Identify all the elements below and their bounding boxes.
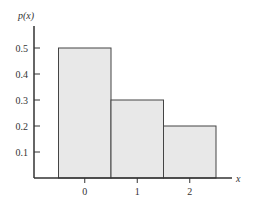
bar-0 — [59, 48, 112, 178]
x-tick-label: 2 — [187, 186, 192, 197]
y-ticks: 0.10.20.30.40.5 — [16, 43, 41, 158]
chart: 0.10.20.30.40.5 012 p(x) x — [0, 0, 253, 204]
y-axis-label: p(x) — [17, 10, 35, 22]
x-tick-label: 0 — [82, 186, 87, 197]
y-tick-label: 0.3 — [16, 95, 29, 106]
x-axis-label: x — [235, 173, 241, 184]
y-tick-label: 0.4 — [16, 69, 29, 80]
bar-1 — [111, 100, 164, 178]
y-tick-label: 0.5 — [16, 43, 29, 54]
bars — [59, 48, 217, 178]
y-tick-label: 0.1 — [16, 147, 29, 158]
bar-2 — [164, 126, 217, 178]
x-tick-label: 1 — [135, 186, 140, 197]
y-tick-label: 0.2 — [16, 121, 29, 132]
x-ticks: 012 — [82, 178, 192, 197]
